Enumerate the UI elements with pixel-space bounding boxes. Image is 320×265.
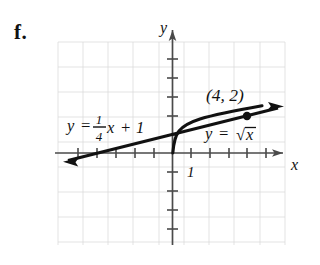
x-tick-label-1: 1 — [187, 164, 195, 180]
curve-eq-lhs: y — [203, 124, 213, 143]
point-label-4-2: (4, 2) — [206, 85, 244, 105]
figure-page: f. — [0, 0, 320, 265]
x-axis-label: x — [290, 156, 298, 173]
line-eq-variable: x — [106, 118, 115, 137]
y-axis-label: y — [158, 19, 168, 37]
point-marker-4-2 — [243, 112, 251, 120]
line-eq-plus: + — [120, 118, 131, 137]
graph-figure: (4, 2) y x 1 y = 1 4 x + 1 y = √ x — [0, 0, 320, 265]
line-eq-numerator: 1 — [96, 112, 103, 127]
radical-icon: √ — [236, 125, 246, 144]
line-eq-equals: = — [80, 116, 91, 135]
line-eq-lhs: y — [65, 116, 75, 135]
line-eq-constant: 1 — [136, 118, 144, 137]
curve-eq-equals: = — [218, 124, 229, 143]
line-eq-denominator: 4 — [96, 129, 103, 144]
